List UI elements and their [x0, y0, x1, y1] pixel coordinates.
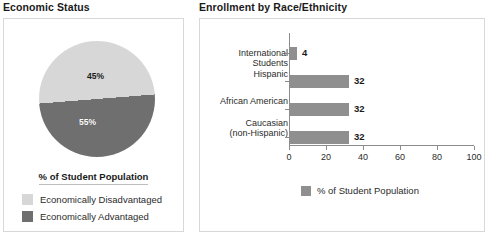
x-axis-tick: [474, 146, 475, 150]
pie-legend-header-text: % of Student Population: [39, 171, 149, 185]
y-axis-tick: [285, 53, 289, 54]
legend-item-advantaged: Economically Advantaged: [22, 208, 162, 225]
enrollment-title: Enrollment by Race/Ethnicity: [199, 1, 347, 13]
economic-status-title: Economic Status: [3, 1, 90, 13]
x-axis-tick: [437, 146, 438, 150]
bar-category-label-african-american: African American: [220, 96, 288, 106]
bar-category-label-line-1: Caucasian: [229, 118, 288, 128]
legend-label-advantaged: Economically Advantaged: [40, 211, 149, 222]
bar-caucasian: [290, 131, 349, 144]
bar-hispanic: [290, 75, 349, 88]
x-axis-tick: [400, 146, 401, 150]
y-axis-tick: [285, 137, 289, 138]
bar-category-label-caucasian: Caucasian (non-Hispanic): [229, 118, 288, 138]
x-axis-tick-label: 60: [395, 152, 405, 162]
x-axis-tick-label: 40: [358, 152, 368, 162]
pie-legend-header: % of Student Population: [4, 171, 183, 185]
x-axis-line: [289, 145, 474, 146]
bar-category-label-international-students: International Students: [238, 48, 288, 68]
legend-label-student-population: % of Student Population: [317, 185, 419, 196]
bar-category-label-line-2: (non-Hispanic): [229, 128, 288, 138]
economic-status-pie-chart: 45% 55%: [39, 41, 155, 157]
legend-label-disadvantaged: Economically Disadvantaged: [40, 194, 162, 205]
x-axis-tick-label: 0: [286, 152, 291, 162]
bar-african-american: [290, 103, 349, 116]
x-axis-tick: [289, 146, 290, 150]
legend-swatch-icon-disadvantaged: [22, 194, 33, 205]
legend-swatch-icon-advantaged: [22, 211, 33, 222]
pie-legend: Economically Disadvantaged Economically …: [22, 191, 162, 225]
bar-category-label-line-2: Students: [238, 58, 288, 68]
pie-slices: [39, 41, 155, 157]
bar-value-hispanic: 32: [354, 75, 365, 86]
enrollment-panel: International Students Hispanic African …: [199, 18, 485, 232]
enrollment-bar-chart: International Students Hispanic African …: [200, 19, 485, 232]
pie-slice-label-disadvantaged: 45%: [87, 71, 104, 81]
bar-value-caucasian: 32: [354, 131, 365, 142]
x-axis-tick: [326, 146, 327, 150]
legend-item-disadvantaged: Economically Disadvantaged: [22, 191, 162, 208]
bar-category-label-line-1: International: [238, 48, 288, 58]
legend-swatch-icon-student-population: [301, 186, 311, 196]
y-axis-tick: [285, 109, 289, 110]
x-axis-tick-label: 100: [466, 152, 481, 162]
pie-slice-label-advantaged: 55%: [79, 117, 96, 127]
x-axis-tick: [363, 146, 364, 150]
bar-value-african-american: 32: [354, 103, 365, 114]
bar-chart-legend: % of Student Population: [301, 185, 419, 196]
x-axis-tick-label: 80: [432, 152, 442, 162]
x-axis-tick-label: 20: [321, 152, 331, 162]
economic-status-panel: 45% 55% % of Student Population Economic…: [3, 18, 184, 232]
bar-international-students: [290, 47, 297, 60]
bar-category-label-hispanic: Hispanic: [253, 69, 288, 79]
bar-value-international-students: 4: [302, 47, 307, 58]
y-axis-tick: [285, 81, 289, 82]
